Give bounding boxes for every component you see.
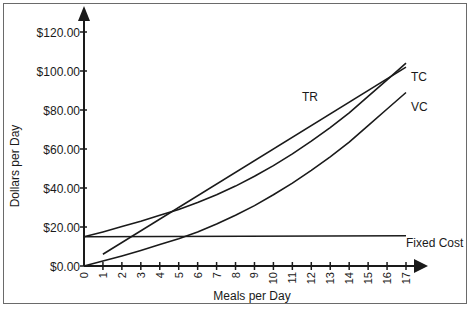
x-tick-label: 16 (381, 272, 393, 284)
y-axis-title: Dollars per Day (8, 125, 22, 208)
vc-label: VC (411, 100, 428, 114)
y-tick-label: $80.00 (43, 104, 80, 118)
y-tick-label: $20.00 (43, 221, 80, 235)
y-tick-label: $40.00 (43, 182, 80, 196)
x-tick-label: 5 (173, 272, 185, 278)
x-tick-label: 10 (267, 272, 279, 284)
x-tick-label: 8 (230, 272, 242, 278)
x-tick-label: 15 (362, 272, 374, 284)
series-lines (84, 63, 406, 266)
y-tick-label: $0.00 (50, 260, 80, 274)
y-tick-label: $120.00 (37, 26, 81, 40)
y-tick-label: $60.00 (43, 143, 80, 157)
x-tick-label: 11 (286, 272, 298, 283)
x-tick-label: 2 (116, 272, 128, 278)
series-line-fixed-cost (84, 236, 406, 237)
y-axis: $0.00$20.00$40.00$60.00$80.00$100.00$120… (37, 6, 90, 274)
x-tick-label: 3 (135, 272, 147, 278)
series-line-tr (103, 67, 406, 254)
x-tick-label: 6 (192, 272, 204, 278)
x-tick-label: 9 (248, 272, 260, 278)
x-tick-label: 0 (78, 272, 90, 278)
fixed-cost-label: Fixed Cost (406, 236, 464, 250)
series-line-vc (84, 93, 406, 267)
tr-label: TR (302, 90, 318, 104)
x-tick-label: 17 (400, 272, 412, 284)
x-tick-label: 14 (343, 272, 355, 284)
x-tick-label: 1 (97, 272, 109, 278)
y-tick-label: $100.00 (37, 65, 81, 79)
x-axis-title: Meals per Day (213, 289, 290, 303)
x-tick-label: 12 (305, 272, 317, 284)
x-tick-label: 4 (154, 272, 166, 278)
y-axis-arrow-icon (78, 6, 90, 21)
cost-revenue-chart: $0.00$20.00$40.00$60.00$80.00$100.00$120… (0, 0, 471, 309)
x-axis: 01234567891011121314151617 (78, 259, 428, 284)
x-tick-label: 7 (211, 272, 223, 278)
tc-label: TC (411, 70, 427, 84)
x-tick-label: 13 (324, 272, 336, 284)
x-axis-arrow-icon (414, 259, 428, 273)
